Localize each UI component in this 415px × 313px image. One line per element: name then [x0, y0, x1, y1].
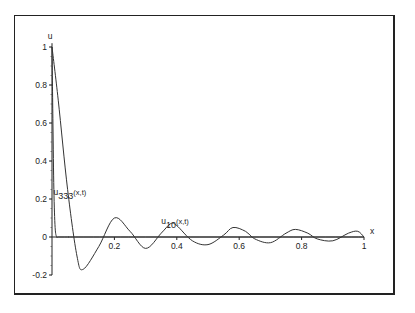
annotation-u10: u10(x,t)	[161, 216, 189, 230]
line-chart: -0.200.20.40.60.810.20.40.60.81uxu333(x,…	[0, 0, 415, 313]
series-u10-line	[52, 47, 364, 270]
x-axis-label: x	[370, 226, 375, 236]
x-tick-label: 0.6	[233, 241, 245, 251]
annotation-u333: u333(x,t)	[54, 187, 87, 201]
y-tick-label: -0.2	[32, 270, 47, 280]
y-tick-label: 0	[42, 232, 47, 242]
x-tick-label: 0.2	[108, 241, 120, 251]
x-tick-label: 0.8	[296, 241, 308, 251]
series-u333-line	[52, 47, 364, 238]
y-tick-label: 1	[42, 42, 47, 52]
y-tick-label: 0.4	[35, 156, 47, 166]
x-tick-label: 0.4	[171, 241, 183, 251]
x-tick-label: 1	[362, 241, 367, 251]
y-tick-label: 0.6	[35, 118, 47, 128]
y-axis-label: u	[48, 31, 53, 41]
y-tick-label: 0.2	[35, 194, 47, 204]
y-tick-label: 0.8	[35, 80, 47, 90]
